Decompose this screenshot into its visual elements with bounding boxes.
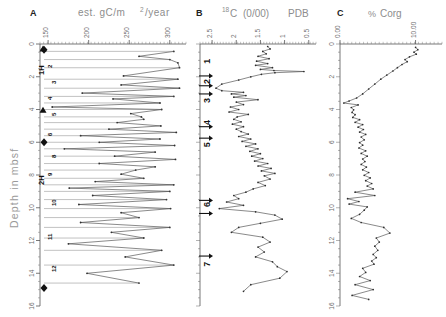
panel-B-data-point [250, 284, 252, 286]
panel-B-data-point [243, 91, 245, 93]
panel-B-data-point [254, 160, 256, 162]
depth-tick-label: 6 [28, 140, 35, 144]
sample-number-label: 2 [47, 64, 53, 68]
panel-A-axis-title: est. gC/m [78, 7, 125, 18]
sample-number-label: 5 [51, 112, 57, 116]
panel-C-data-point [386, 74, 388, 76]
panel-B-data-point [233, 118, 235, 120]
panel-A-data-point [80, 222, 82, 224]
panel-C-depth-label: 16 [328, 302, 335, 310]
panel-B-data-point [263, 175, 265, 177]
panel-C-data-point [397, 67, 399, 69]
panel-C-data-point [362, 267, 364, 269]
panel-C-data-point [363, 139, 365, 141]
panel-C-data-point [365, 180, 367, 182]
panel-B-data-point [251, 155, 253, 157]
panel-A-data-point [92, 195, 94, 197]
stage-arrow-head [209, 136, 213, 141]
panel-B-data-point [276, 266, 278, 268]
panel-B-data-point [233, 96, 235, 98]
panel-C-data-point [366, 185, 368, 187]
panel-C-data-point [353, 109, 355, 111]
panel-B-data-point [236, 116, 238, 118]
panel-C-data-point [350, 107, 352, 109]
panel-C-data-point [351, 295, 353, 297]
panel-A-data-line [52, 51, 179, 283]
panel-C-data-point [383, 227, 385, 229]
panel-B-data-point [243, 104, 245, 106]
panel-C-data-point [392, 70, 394, 72]
panel-B-data-point [257, 55, 259, 57]
panel-C-data-point [375, 237, 377, 239]
panel-B-data-point [257, 182, 259, 184]
panel-A-tick-label: 250 [123, 27, 130, 38]
panel-A-data-point [124, 256, 126, 258]
panel-C-data-point [362, 144, 364, 146]
panel-B-data-point [235, 101, 237, 103]
panel-C-data-point [371, 183, 373, 185]
panel-C-data-point [368, 88, 370, 90]
panel-A-axis-title-sup: 2 [140, 6, 144, 13]
panel-B-data-point [267, 46, 269, 48]
panel-C-data-point [409, 56, 411, 58]
panel-B-data-point [261, 73, 263, 75]
panel-A-data-point [68, 187, 70, 189]
panel-C-data-point [362, 124, 364, 126]
panel-A-data-point [112, 98, 114, 100]
diamond-marker [41, 138, 48, 146]
stage-arrow-head [209, 73, 213, 78]
panel-C-depth-label: 0 [328, 42, 335, 46]
panel-C-data-point [343, 102, 345, 104]
stage-label: 4 [202, 120, 212, 125]
panel-C-data-point [374, 245, 376, 247]
panel-C-letter: C [337, 8, 344, 18]
panel-C-data-point [354, 284, 356, 286]
panel-B-data-point [240, 121, 242, 123]
panel-C-data-point [377, 249, 379, 251]
panel-C-data-point [374, 83, 376, 85]
panel-B-data-point [245, 145, 247, 147]
panel-A-data-point [175, 159, 177, 161]
panel-C-data-point [362, 169, 364, 171]
panel-B-data-point [226, 201, 228, 203]
panel-C-data-point [366, 206, 368, 208]
panel-A-data-point [160, 125, 162, 127]
panel-B-tick-label: 2.5 [206, 29, 213, 38]
panel-B-tick-label: 1 [279, 34, 286, 38]
panel-A-data-point [175, 132, 177, 134]
panel-A-tick-label: 200 [83, 27, 90, 38]
panel-C-data-point [368, 172, 370, 174]
panel-C-data-point [354, 191, 356, 193]
panel-C-data-point [363, 209, 365, 211]
sample-number-label: 9 [47, 172, 53, 176]
sample-number-label: 12 [51, 265, 57, 272]
panel-B-data-point [265, 53, 267, 55]
panel-B-data-point [238, 227, 240, 229]
panel-C-data-point [348, 100, 350, 102]
stage-label: 7 [202, 262, 212, 267]
panel-B-data-point [231, 93, 233, 95]
panel-B-data-line [216, 47, 304, 292]
panel-B-data-point [243, 126, 245, 128]
panel-A-tick-label: 300 [164, 27, 171, 38]
panel-A-data-point [154, 151, 156, 153]
panel-B-data-point [231, 231, 233, 233]
panel-C-data-point [360, 136, 362, 138]
panel-C-data-point [359, 213, 361, 215]
panel-A-data-point [51, 106, 53, 108]
panel-C-data-point [365, 150, 367, 152]
panel-C-depth-label: 8 [328, 173, 335, 177]
panel-B-data-point [240, 131, 242, 133]
panel-C-data-point [406, 61, 408, 63]
panel-A-data-point [177, 62, 179, 64]
depth-tick-label: 4 [28, 107, 35, 111]
figure-svg: 0246810121416Depth in mbsf150200250300es… [0, 0, 446, 317]
panel-B-data-point [262, 51, 264, 53]
panel-B-data-point [261, 170, 263, 172]
depth-tick-label: 14 [28, 269, 35, 277]
panel-C-data-point [401, 64, 403, 66]
panel-B-axis-title-sup: 18 [222, 6, 230, 13]
panel-C-tick-label: 10.00 [410, 21, 417, 38]
panel-C-data-point [369, 280, 371, 282]
panel-C-data-point [359, 119, 361, 121]
